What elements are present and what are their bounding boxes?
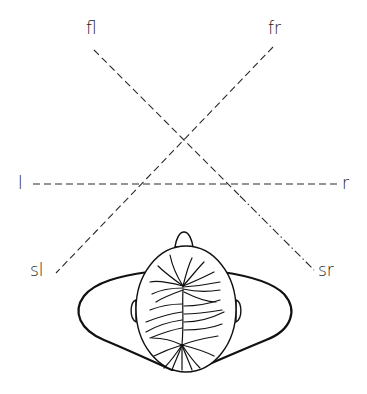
label-r: r: [342, 173, 349, 193]
label-l: l: [18, 173, 23, 193]
axis-fl-sr-rear: [240, 196, 314, 270]
label-fr: fr: [268, 18, 281, 38]
label-sr: sr: [318, 260, 334, 280]
axis-fr-sl: [56, 47, 273, 273]
label-sl: sl: [30, 260, 44, 280]
label-fl: fl: [86, 18, 97, 38]
speaker-layout-diagram: fl fr l r sl sr: [0, 0, 367, 394]
axis-fl-sr-front: [94, 50, 240, 196]
listener-head-top-view: [78, 232, 291, 372]
nose: [175, 232, 193, 247]
